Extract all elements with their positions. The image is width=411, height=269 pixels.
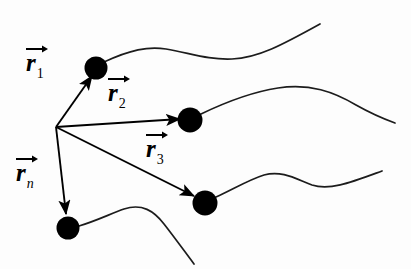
- trajectory-2: [201, 87, 395, 123]
- vector-arrow-icon: [15, 155, 39, 163]
- vector-r3: [56, 127, 194, 196]
- r1-base: r: [26, 50, 36, 75]
- trajectory-3: [216, 171, 382, 197]
- r1-glyph: r: [26, 50, 36, 75]
- vector-arrow-icon: [145, 131, 169, 139]
- r2-glyph: r: [108, 80, 118, 105]
- particle-3: [193, 191, 218, 216]
- particle-2: [178, 108, 203, 133]
- vector-r1: [56, 76, 92, 127]
- r1-subscript: 1: [37, 66, 44, 81]
- vector-r2: [56, 119, 180, 127]
- particles: [57, 57, 218, 240]
- particle-n: [57, 217, 80, 240]
- label-r3: r 3: [146, 136, 163, 161]
- vector-diagram-figure: r 1 r 2 r 3 r n: [0, 0, 411, 269]
- diagram-canvas: [0, 0, 411, 269]
- trajectory-1: [104, 24, 320, 62]
- r3-glyph: r: [146, 136, 156, 161]
- rn-base: r: [16, 160, 26, 185]
- vector-arrow-icon: [107, 75, 131, 83]
- rn-subscript: n: [27, 176, 34, 191]
- r2-subscript: 2: [119, 96, 126, 111]
- vector-rn: [56, 127, 66, 214]
- particle-1: [85, 57, 108, 80]
- rn-glyph: r: [16, 160, 26, 185]
- r3-subscript: 3: [157, 152, 164, 167]
- trajectory-n: [79, 207, 194, 264]
- label-r1: r 1: [26, 50, 43, 75]
- trajectory-curves: [79, 24, 395, 264]
- label-r2: r 2: [108, 80, 125, 105]
- vector-arrow-icon: [25, 45, 49, 53]
- r3-base: r: [146, 136, 156, 161]
- r2-base: r: [108, 80, 118, 105]
- label-rn: r n: [16, 160, 33, 185]
